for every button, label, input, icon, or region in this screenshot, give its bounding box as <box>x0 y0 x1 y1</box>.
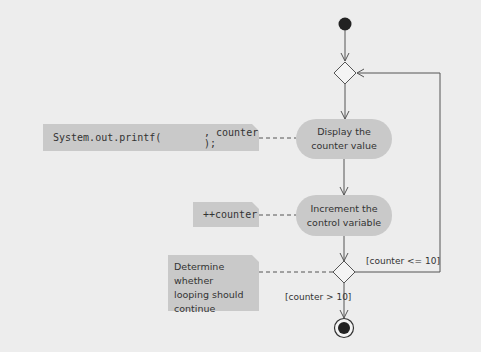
note-increment-text: ++counter <box>203 209 257 220</box>
activity-increment-counter: Increment the control variable <box>296 195 392 236</box>
note-fold-icon <box>252 124 259 131</box>
note-decision-line: continue <box>174 302 253 316</box>
note-printf: System.out.printf( , counter ); <box>43 124 259 151</box>
activity-label: control variable <box>307 216 381 230</box>
activity-label: counter value <box>311 139 377 153</box>
decision-diamond-icon <box>333 261 355 283</box>
note-decision-line: Determine whether <box>174 260 253 288</box>
note-decision-line: looping should <box>174 288 253 302</box>
note-decision: Determine whether looping should continu… <box>168 255 259 311</box>
note-fold-icon <box>252 202 259 209</box>
note-increment: ++counter <box>193 202 259 227</box>
note-printf-suffix: , counter ); <box>204 127 259 149</box>
note-printf-prefix: System.out.printf( <box>53 132 161 143</box>
activity-label: Display the <box>311 125 377 139</box>
guard-loop: [counter <= 10] <box>366 256 440 266</box>
activity-display-counter: Display the counter value <box>296 119 392 159</box>
initial-node-icon <box>339 18 352 31</box>
activity-label: Increment the <box>307 202 381 216</box>
note-fold-icon <box>252 255 259 262</box>
guard-exit: [counter > 10] <box>285 292 351 302</box>
merge-diamond-icon <box>334 62 356 84</box>
